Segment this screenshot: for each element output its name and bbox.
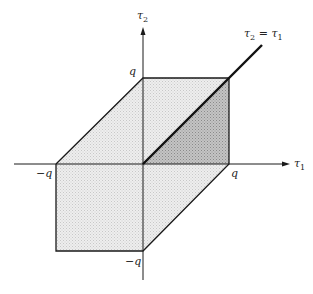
y-axis-subscript: 2 bbox=[143, 15, 148, 24]
x-axis-label: τ1 bbox=[294, 158, 305, 172]
x-tick-neg-q: −q bbox=[36, 168, 52, 179]
line-label-equals: = bbox=[255, 27, 271, 40]
y-tick-neg-q: −q bbox=[125, 256, 141, 267]
line-label-rhs-sub: 1 bbox=[278, 33, 283, 42]
diagram-svg bbox=[0, 0, 313, 294]
x-axis-arrowhead-icon bbox=[282, 162, 290, 167]
y-axis-arrowhead-icon bbox=[141, 27, 146, 35]
diagram-canvas: τ2 τ1 q q −q −q τ2 = τ1 bbox=[0, 0, 313, 294]
y-axis-label: τ2 bbox=[137, 10, 148, 24]
diagonal-line-label: τ2 = τ1 bbox=[244, 28, 283, 42]
x-tick-q: q bbox=[231, 168, 238, 179]
x-axis-subscript: 1 bbox=[300, 163, 305, 172]
y-tick-q: q bbox=[129, 66, 136, 77]
